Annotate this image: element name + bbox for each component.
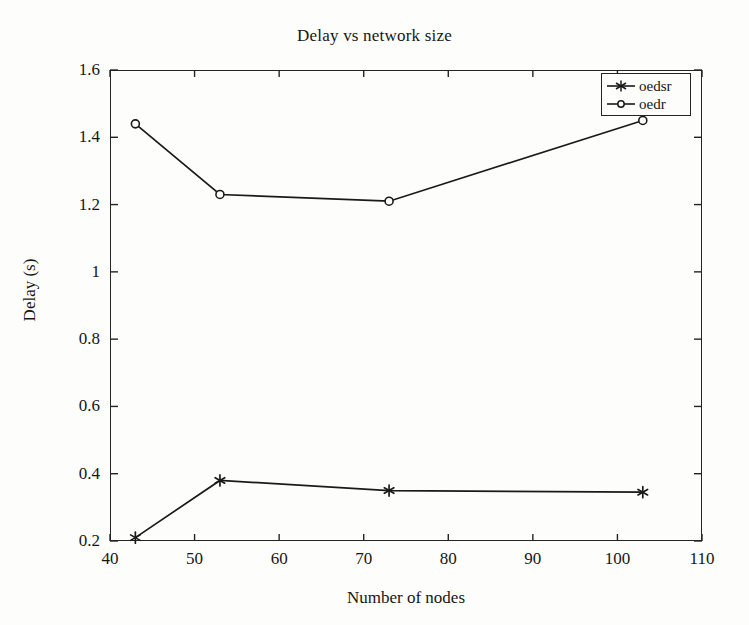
data-series-group	[131, 116, 648, 543]
legend: oedsr oedr	[601, 73, 691, 116]
series-oedr	[131, 116, 646, 205]
data-point-marker	[385, 197, 393, 205]
legend-item-1: oedr	[606, 95, 686, 113]
y-axis-label: Delay (s)	[20, 230, 40, 350]
x-tick-label: 40	[80, 549, 140, 569]
data-point-marker	[131, 532, 141, 543]
y-tick-label: 0.4	[40, 464, 100, 484]
series-oedsr	[131, 475, 648, 543]
legend-item-0: oedsr	[606, 77, 686, 95]
legend-label-oedr: oedr	[639, 96, 666, 112]
y-tick-label: 0.2	[40, 531, 100, 551]
x-tick-label: 80	[418, 549, 478, 569]
y-tick-label: 1.6	[40, 60, 100, 80]
data-point-marker	[131, 120, 139, 128]
chart-title: Delay vs network size	[0, 26, 749, 46]
x-tick-label: 90	[503, 549, 563, 569]
y-tick-label: 1.4	[40, 127, 100, 147]
axis-ticks	[110, 70, 702, 541]
x-tick-label: 50	[165, 549, 225, 569]
star-marker-icon	[606, 78, 636, 94]
x-tick-label: 60	[249, 549, 309, 569]
y-tick-label: 1.2	[40, 195, 100, 215]
data-point-marker	[216, 190, 224, 198]
legend-label-oedsr: oedsr	[639, 78, 672, 94]
y-tick-label: 1	[40, 262, 100, 282]
chart-figure: Delay vs network size Delay (s) Number o…	[0, 0, 749, 625]
x-tick-label: 110	[672, 549, 732, 569]
y-tick-label: 0.8	[40, 329, 100, 349]
x-tick-label: 100	[587, 549, 647, 569]
y-tick-label: 0.6	[40, 396, 100, 416]
circle-marker-icon	[606, 96, 636, 112]
data-point-marker	[639, 116, 647, 124]
x-axis-label: Number of nodes	[110, 588, 702, 608]
plot-area	[110, 70, 702, 541]
x-tick-label: 70	[334, 549, 394, 569]
